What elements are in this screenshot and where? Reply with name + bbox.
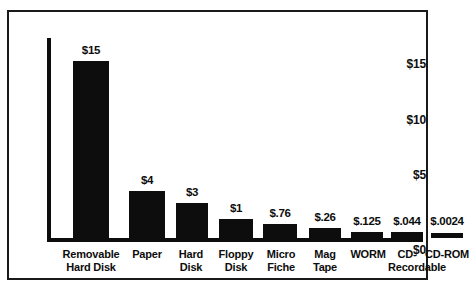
category-line-1: WORM [345, 248, 391, 261]
category-line-1: Removable [51, 248, 131, 261]
bar-series: $15 $4 $3 $1 $.76 $.26 [51, 38, 423, 238]
category-label-cd-rom: CD-ROM [421, 248, 473, 261]
category-line-1: Floppy [213, 248, 259, 261]
category-label-micro-fiche: Micro Fiche [259, 248, 303, 274]
bar-rect [263, 224, 297, 238]
category-label-floppy-disk: Floppy Disk [213, 248, 259, 274]
bar-rect [351, 232, 383, 238]
bar-value-label: $15 [57, 44, 125, 56]
category-line-2: Recordable [379, 261, 455, 274]
bar-value-label: $3 [160, 186, 224, 198]
category-line-2: Hard Disk [51, 261, 131, 274]
category-line-1: CD-ROM [421, 248, 473, 261]
bar-rect [129, 191, 165, 238]
category-line-1: Paper [123, 248, 171, 261]
bar-group-removable-hard-disk[interactable]: $15 [73, 38, 109, 238]
category-label-worm: WORM [345, 248, 391, 261]
plot-area: $15 $10 $5 $0 $15 $4 $3 $1 $.76 [9, 12, 426, 278]
bar-value-label: $.0024 [415, 215, 474, 227]
category-line-1: Hard [169, 248, 213, 261]
chart-frame: $15 $10 $5 $0 $15 $4 $3 $1 $.76 [7, 10, 428, 280]
category-label-removable-hard-disk: Removable Hard Disk [51, 248, 131, 274]
bar-rect [219, 219, 253, 238]
x-axis-line [47, 238, 423, 242]
bar-group-micro-fiche[interactable]: $.76 [263, 38, 297, 238]
category-line-2: Disk [169, 261, 213, 274]
category-line-2: Fiche [259, 261, 303, 274]
bar-rect [431, 233, 463, 238]
category-line-1: Micro [259, 248, 303, 261]
category-line-2: Disk [213, 261, 259, 274]
category-axis-labels: Removable Hard Disk Paper Hard Disk Flop… [51, 248, 423, 282]
bar-rect [309, 228, 341, 238]
category-label-mag-tape: Mag Tape [305, 248, 345, 274]
bar-group-worm[interactable]: $.125 [351, 38, 383, 238]
category-line-1: Mag [305, 248, 345, 261]
category-line-2: Tape [305, 261, 345, 274]
category-label-paper: Paper [123, 248, 171, 261]
bar-rect [73, 61, 109, 238]
bar-group-cd-recordable[interactable]: $.044 [391, 38, 423, 238]
bar-group-mag-tape[interactable]: $.26 [309, 38, 341, 238]
bar-group-paper[interactable]: $4 [129, 38, 165, 238]
bar-rect [391, 232, 423, 238]
category-label-hard-disk: Hard Disk [169, 248, 213, 274]
bar-value-label: $4 [113, 174, 181, 186]
bar-group-cd-rom[interactable]: $.0024 [431, 38, 463, 238]
